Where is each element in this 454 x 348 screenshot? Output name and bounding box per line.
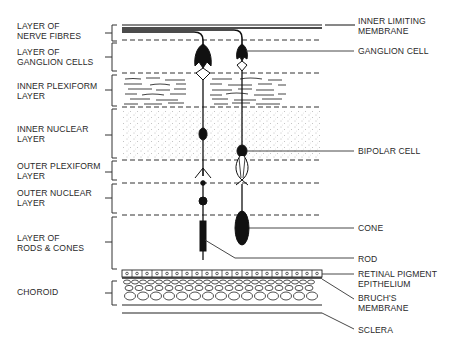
label-rod: ROD — [358, 254, 377, 264]
bipolar-cell-body-right — [237, 145, 247, 157]
label-inner-limiting-membrane: INNER LIMITINGMEMBRANE — [358, 16, 426, 37]
label-outer-nuclear: OUTER NUCLEARLAYER — [17, 188, 92, 209]
ganglion-cell-body-right — [237, 44, 248, 61]
pigment-epithelium — [122, 270, 322, 278]
label-bruchs-membrane: BRUCH'SMEMBRANE — [358, 293, 408, 314]
ganglion-cell-body-left — [195, 44, 211, 68]
label-ganglion-cell: GANGLION CELL — [358, 46, 429, 56]
label-sclera: SCLERA — [358, 325, 393, 335]
layer-brackets — [105, 25, 117, 305]
label-rods-cones: LAYER OFRODS & CONES — [17, 233, 84, 254]
rod-body — [200, 221, 206, 251]
label-cone: CONE — [358, 223, 383, 233]
inner-plexiform-texture — [124, 78, 286, 104]
label-choroid: CHOROID — [17, 287, 58, 297]
bipolar-cell-body-left — [199, 128, 207, 140]
label-nerve-fibres: LAYER OFNERVE FIBRES — [17, 21, 81, 42]
label-inner-nuclear: INNER NUCLEARLAYER — [17, 124, 89, 145]
nerve-fibres — [122, 25, 355, 45]
label-bipolar-cell: BIPOLAR CELL — [358, 146, 420, 156]
choroid-vessels — [124, 280, 318, 300]
sclera-lines — [122, 305, 322, 313]
label-inner-plexiform: INNER PLEXIFORMLAYER — [17, 81, 97, 102]
label-outer-plexiform: OUTER PLEXIFORMLAYER — [17, 161, 101, 182]
label-retinal-pigment-epithelium: RETINAL PIGMENTEPITHELIUM — [358, 269, 437, 290]
leader-lines — [205, 51, 354, 329]
cone-body — [235, 211, 249, 245]
label-ganglion-cells: LAYER OFGANGLION CELLS — [17, 47, 93, 68]
